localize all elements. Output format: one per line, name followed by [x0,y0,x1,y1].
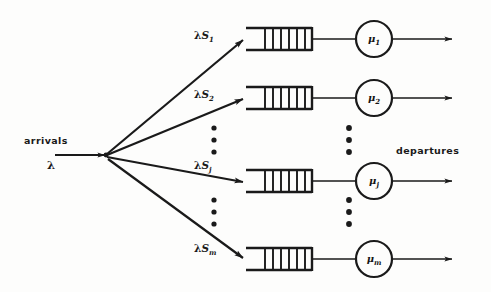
branch-arrow-m [108,159,243,258]
queue-buffer-1 [246,27,312,51]
server-rate-label-2: μ2 [368,92,380,106]
queue-buffer-m [246,247,312,271]
server-rate-label-1: μ1 [368,33,380,47]
ellipsis-server-lower [346,197,352,227]
queue-buffer-2 [246,86,312,110]
server-rate-label-j: μj [369,175,379,189]
arrivals-label: arrivals [24,136,68,146]
arrival-rate-label: λ [47,160,55,172]
branch-rate-label-j: λSj [194,160,212,173]
branch-arrow-j [107,157,243,182]
ellipsis-server-upper [346,125,352,155]
branch-rate-label-2: λS2 [194,89,214,102]
server-rate-label-m: μm [367,253,382,267]
queueing-network-figure: arrivals λ departures λS1 λS2 λSj λSm μ1… [0,0,491,292]
departures-label: departures [396,146,459,156]
branch-rate-label-1: λS1 [194,30,214,43]
ellipsis-branch-upper [211,125,216,154]
branch-rate-label-m: λSm [194,243,216,256]
branch-arrow-1 [107,40,243,154]
queue-buffer-j [246,169,312,193]
ellipsis-branch-lower [211,197,216,226]
branch-arrow-2 [107,99,243,155]
